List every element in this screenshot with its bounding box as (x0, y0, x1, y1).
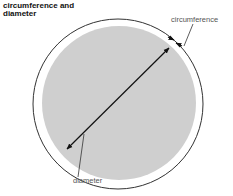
inner-disc (42, 26, 196, 180)
diagram-title: circumference and diameter (3, 2, 74, 18)
circumference-leader-line (184, 24, 193, 46)
diagram-graphic (0, 0, 233, 196)
circle-diagram: circumference and diameter circumference… (0, 0, 233, 196)
diameter-label: diameter (73, 176, 102, 185)
circumference-arrow-icon-2 (176, 43, 182, 46)
circumference-label: circumference (171, 15, 218, 24)
